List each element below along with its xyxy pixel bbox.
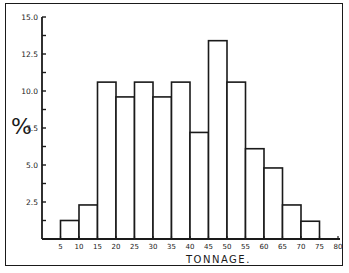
y-tick-label: 10.0 <box>21 87 38 96</box>
x-tick-label: 80 <box>334 243 343 251</box>
x-tick-label: 50 <box>223 243 232 251</box>
histogram-bar <box>79 205 98 239</box>
x-tick-label: 65 <box>278 243 287 251</box>
y-tick-label: 12.5 <box>21 50 38 59</box>
y-tick-label: 2.5 <box>26 198 38 207</box>
histogram-bar <box>190 132 209 239</box>
histogram-bar <box>172 82 191 239</box>
histogram-bar <box>283 205 302 239</box>
x-tick-label: 30 <box>149 243 158 251</box>
histogram-bar <box>116 97 135 239</box>
histogram-bar <box>209 41 228 239</box>
x-tick-label: 25 <box>130 243 139 251</box>
histogram-bar <box>301 221 320 239</box>
histogram-bar <box>264 168 283 239</box>
histogram-bar <box>135 82 154 239</box>
x-tick-label: 5 <box>58 243 62 251</box>
histogram-bar <box>61 221 80 240</box>
x-tick-label: 10 <box>75 243 84 251</box>
histogram-bar <box>227 82 246 239</box>
histogram-chart: 2.55.07.510.012.515.0 510152025303540455… <box>0 0 349 273</box>
y-tick-label: 15.0 <box>21 13 38 22</box>
histogram-bar <box>153 97 172 239</box>
y-tick-label: 5.0 <box>26 161 38 170</box>
x-tick-label: 60 <box>260 243 269 251</box>
y-axis-label: % <box>11 114 32 139</box>
x-tick-label: 40 <box>186 243 195 251</box>
histogram-bars <box>61 41 320 239</box>
x-tick-label: 55 <box>241 243 250 251</box>
x-tick-label: 70 <box>297 243 306 251</box>
histogram-bar <box>246 149 265 239</box>
x-tick-label: 20 <box>112 243 121 251</box>
x-tick-label: 75 <box>315 243 324 251</box>
x-tick-label: 45 <box>204 243 213 251</box>
x-tick-label: 15 <box>93 243 102 251</box>
x-tick-label: 35 <box>167 243 176 251</box>
histogram-bar <box>98 82 117 239</box>
x-axis-label: TONNAGE. <box>185 254 251 265</box>
